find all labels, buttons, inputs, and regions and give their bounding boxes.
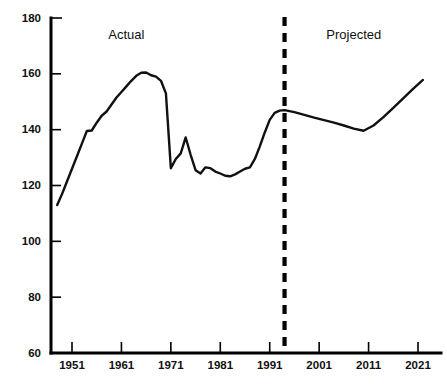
x-tick-label: 1991: [257, 359, 283, 371]
y-tick-label: 140: [22, 123, 41, 135]
y-tick-label: 60: [28, 347, 41, 359]
y-tick-label: 160: [22, 67, 41, 79]
x-tick-label: 1981: [207, 359, 233, 371]
actual-region-label: Actual: [108, 27, 144, 42]
data-series-group: [57, 72, 423, 205]
data-line: [57, 72, 423, 205]
x-axis: 19511961197119811991200120112021: [59, 342, 431, 371]
y-tick-label: 180: [22, 12, 41, 24]
projected-region-label: Projected: [326, 27, 381, 42]
x-tick-label: 1961: [109, 359, 135, 371]
x-tick-label: 2001: [306, 359, 332, 371]
chart-container: 6080100120140160180 19511961197119811991…: [0, 0, 447, 386]
chart-annotations: ActualProjected: [108, 27, 381, 42]
x-tick-label: 1971: [158, 359, 184, 371]
y-tick-label: 120: [22, 179, 41, 191]
line-chart: 6080100120140160180 19511961197119811991…: [0, 0, 447, 386]
y-axis: 6080100120140160180: [22, 12, 61, 359]
x-tick-label: 2011: [356, 359, 382, 371]
y-tick-label: 100: [22, 235, 41, 247]
y-tick-label: 80: [28, 291, 41, 303]
x-tick-label: 2021: [405, 359, 431, 371]
axis-frame: [51, 18, 441, 353]
x-tick-label: 1951: [59, 359, 85, 371]
